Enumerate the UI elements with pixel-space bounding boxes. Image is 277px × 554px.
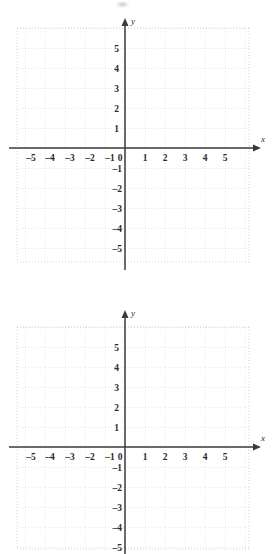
x-axis-label: x xyxy=(260,134,265,144)
x-tick-label: –4 xyxy=(44,452,55,462)
x-tick-label: –3 xyxy=(64,452,75,462)
x-tick-label: –2 xyxy=(84,452,95,462)
coordinate-grid-1: x y –5 –4 –3 –2 –1 0 1 2 3 4 5 5 4 3 2 1… xyxy=(0,0,277,277)
y-tick-label: 5 xyxy=(114,343,119,353)
y-tick-label: –1 xyxy=(112,164,123,174)
gridlines xyxy=(17,327,249,549)
y-tick-label: 4 xyxy=(114,363,119,373)
x-tick-label: 4 xyxy=(203,452,208,462)
x-tick-label: –5 xyxy=(25,153,36,163)
y-tick-label: 1 xyxy=(114,124,119,134)
y-tick-label: –2 xyxy=(112,483,123,493)
x-tick-label: 2 xyxy=(163,452,168,462)
x-tick-label: 1 xyxy=(143,153,148,163)
x-tick-label: 5 xyxy=(223,452,228,462)
origin-label: 0 xyxy=(118,452,123,462)
y-tick-label: –5 xyxy=(112,244,123,254)
coordinate-grid-2: x y –5 –4 –3 –2 –1 0 1 2 3 4 5 5 4 3 2 1… xyxy=(0,277,277,554)
x-tick-label: 3 xyxy=(183,452,188,462)
x-tick-label: –2 xyxy=(84,153,95,163)
y-tick-label: –3 xyxy=(112,204,123,214)
y-tick-label: 1 xyxy=(114,423,119,433)
x-axis-label: x xyxy=(260,433,265,443)
y-tick-label: 4 xyxy=(114,64,119,74)
y-tick-label: 2 xyxy=(114,403,119,413)
x-tick-label: –4 xyxy=(44,153,55,163)
x-tick-label: –1 xyxy=(104,153,115,163)
y-tick-label: –4 xyxy=(112,523,123,533)
x-tick-label: –1 xyxy=(104,452,115,462)
x-tick-label: –5 xyxy=(25,452,36,462)
y-axis-label: y xyxy=(130,16,135,26)
y-tick-label: –5 xyxy=(112,543,123,553)
y-axis-label: y xyxy=(130,308,135,318)
gridlines xyxy=(17,28,249,262)
x-tick-label: 3 xyxy=(183,153,188,163)
origin-label: 0 xyxy=(118,153,123,163)
y-tick-label: 3 xyxy=(114,84,119,94)
x-tick-label: 2 xyxy=(163,153,168,163)
x-tick-label: 4 xyxy=(203,153,208,163)
x-tick-label: –3 xyxy=(64,153,75,163)
y-tick-label: –4 xyxy=(112,224,123,234)
y-tick-label: 5 xyxy=(114,44,119,54)
x-tick-label: 1 xyxy=(143,452,148,462)
y-tick-label: 2 xyxy=(114,104,119,114)
y-tick-label: –3 xyxy=(112,503,123,513)
y-tick-label: –2 xyxy=(112,184,123,194)
x-tick-label: 5 xyxy=(223,153,228,163)
y-tick-label: 3 xyxy=(114,383,119,393)
y-tick-label: –1 xyxy=(112,463,123,473)
